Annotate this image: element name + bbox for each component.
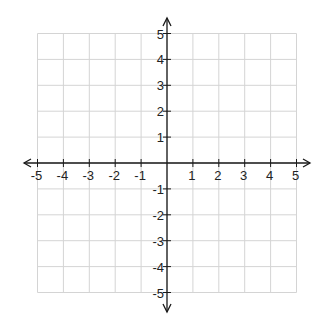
y-tick-label: -1: [152, 182, 164, 197]
y-tick-label: 2: [157, 104, 164, 119]
y-tick-label: -3: [152, 234, 164, 249]
x-tick-label: -4: [57, 168, 69, 183]
x-tick-label: 1: [188, 168, 195, 183]
y-tick-label: -4: [152, 260, 164, 275]
y-tick-label: 1: [157, 130, 164, 145]
coordinate-plane: -5-4-3-2-112345-5-4-3-2-112345: [0, 0, 326, 327]
y-tick-label: 5: [157, 27, 164, 42]
x-tick-label: -2: [108, 168, 120, 183]
y-tick-label: -5: [152, 286, 164, 301]
x-tick-label: 5: [292, 168, 299, 183]
x-tick-label: 3: [240, 168, 247, 183]
x-tick-label: 2: [214, 168, 221, 183]
y-tick-label: 3: [157, 78, 164, 93]
x-tick-label: -5: [31, 168, 43, 183]
x-tick-label: -3: [83, 168, 95, 183]
y-tick-label: 4: [157, 52, 164, 67]
axes: [24, 18, 310, 312]
x-tick-label: -1: [134, 168, 146, 183]
y-tick-label: -2: [152, 208, 164, 223]
x-tick-label: 4: [266, 168, 273, 183]
